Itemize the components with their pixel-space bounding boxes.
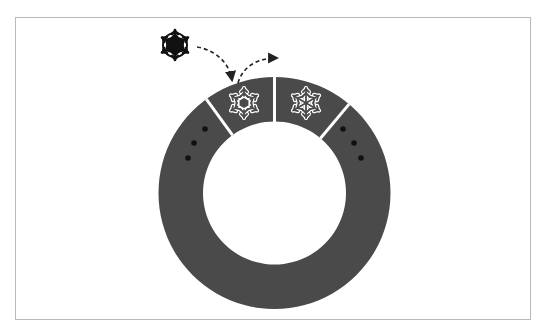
- snowflake-filled-icon: [160, 30, 190, 60]
- arrow-insert: [197, 47, 232, 80]
- ring-buffer-diagram: [0, 0, 546, 332]
